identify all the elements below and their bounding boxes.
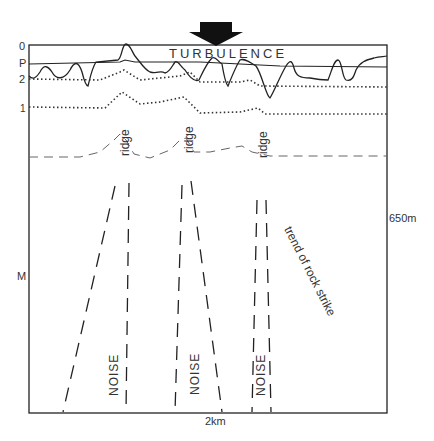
noise-label-3: NOISE xyxy=(254,354,268,396)
noise-line-2a xyxy=(175,185,182,412)
rock-strike-label: trend of rock strike xyxy=(281,224,338,319)
noise-label-1: NOISE xyxy=(107,354,121,396)
ridge-dashed-line xyxy=(29,134,387,158)
depth-label-650m: 650m xyxy=(389,212,417,224)
noise-line-1b xyxy=(126,183,129,412)
diagram-frame xyxy=(29,45,387,413)
noise-label-2: NOISE xyxy=(188,353,202,395)
line-1-dotted xyxy=(29,92,387,114)
axis-label-1: 1 xyxy=(20,103,26,114)
turbulence-label: TURBULENCE xyxy=(169,46,287,61)
ridge-label-2: ridge xyxy=(182,126,196,153)
axis-label-0: 0 xyxy=(19,40,25,52)
distance-label-2km: 2km xyxy=(205,415,226,427)
axis-label-p: P xyxy=(19,57,26,69)
diagram-canvas: TURBULENCE 0 P 2 1 M 650m 2km ridge ridg… xyxy=(0,0,434,441)
axis-label-m: M xyxy=(17,270,26,282)
down-arrow-icon xyxy=(189,22,243,46)
ridge-label-3: ridge xyxy=(256,131,270,158)
axis-label-2: 2 xyxy=(19,73,25,85)
ridge-label-1: ridge xyxy=(118,129,132,156)
